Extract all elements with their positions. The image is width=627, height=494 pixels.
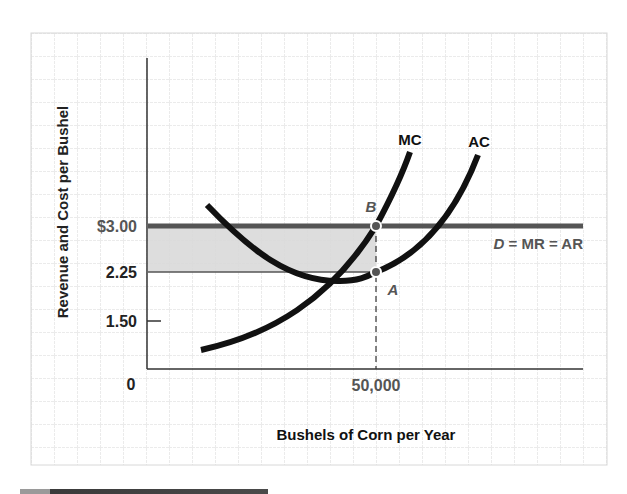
origin-label: 0	[127, 376, 136, 393]
point-b-marker	[371, 221, 381, 231]
mc-curve-label: MC	[398, 131, 421, 148]
x-tick-label-50000: 50,000	[352, 377, 401, 394]
y-tick-label-225: 2.25	[106, 264, 137, 281]
demand-d-text: D	[494, 235, 505, 252]
point-a-marker	[371, 267, 381, 277]
y-axis-label: Revenue and Cost per Bushel	[54, 106, 71, 319]
chart-figure: Revenue and Cost per Bushel $3.00 2.25 1…	[0, 0, 627, 494]
y-tick-label-300: $3.00	[97, 218, 137, 235]
point-b-text: B	[366, 198, 377, 215]
point-a-text: A	[387, 281, 399, 298]
point-b-label: B	[366, 198, 377, 215]
demand-rest-text: = MR = AR	[504, 235, 583, 252]
decorative-bottom-bar	[20, 489, 268, 494]
point-a-label: A	[387, 281, 399, 298]
demand-line-label: D = MR = AR	[494, 235, 584, 252]
x-axis-label: Bushels of Corn per Year	[277, 426, 456, 443]
ac-curve-label: AC	[468, 133, 490, 150]
profit-shaded-region	[148, 227, 376, 272]
y-tick-label-150: 1.50	[106, 313, 137, 330]
